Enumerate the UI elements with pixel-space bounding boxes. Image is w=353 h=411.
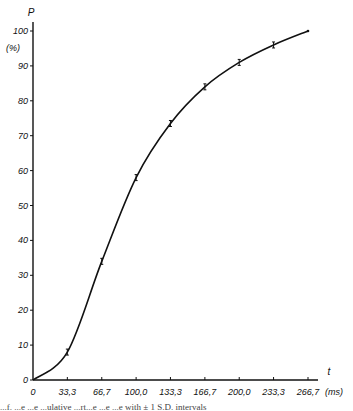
x-axis-label: t xyxy=(328,366,332,377)
x-axis-unit: (ms) xyxy=(325,387,343,397)
y-tick-label: 90 xyxy=(18,61,28,71)
y-tick-label: 30 xyxy=(18,270,28,280)
x-tick-label: 233,3 xyxy=(261,387,285,397)
cumulative-probability-chart: 0102030405060708090100033,366,7100,0133,… xyxy=(0,0,353,411)
x-tick-label: 200,0 xyxy=(227,387,251,397)
y-axis-label: P xyxy=(28,7,35,18)
y-tick-label: 100 xyxy=(13,26,28,36)
y-axis-unit: (%) xyxy=(6,43,20,53)
x-tick-label: 33,3 xyxy=(59,387,77,397)
figure-caption: ...f. ...e ...e ...ulative ...rt...e ...… xyxy=(0,402,353,411)
y-tick-label: 40 xyxy=(18,235,28,245)
x-tick-label: 266,7 xyxy=(296,387,321,397)
x-tick-label: 100,0 xyxy=(125,387,148,397)
data-point xyxy=(307,30,310,33)
y-tick-label: 10 xyxy=(18,340,28,350)
y-tick-label: 50 xyxy=(18,201,28,211)
y-tick-label: 70 xyxy=(18,131,28,141)
x-tick-label: 166,7 xyxy=(194,387,218,397)
series-curve xyxy=(33,31,308,380)
y-tick-label: 20 xyxy=(17,305,28,315)
x-tick-label: 0 xyxy=(30,387,35,397)
y-tick-label: 60 xyxy=(18,166,28,176)
y-tick-label: 0 xyxy=(23,375,28,385)
y-tick-label: 80 xyxy=(18,96,28,106)
x-tick-label: 133,3 xyxy=(159,387,182,397)
x-tick-label: 66,7 xyxy=(93,387,112,397)
